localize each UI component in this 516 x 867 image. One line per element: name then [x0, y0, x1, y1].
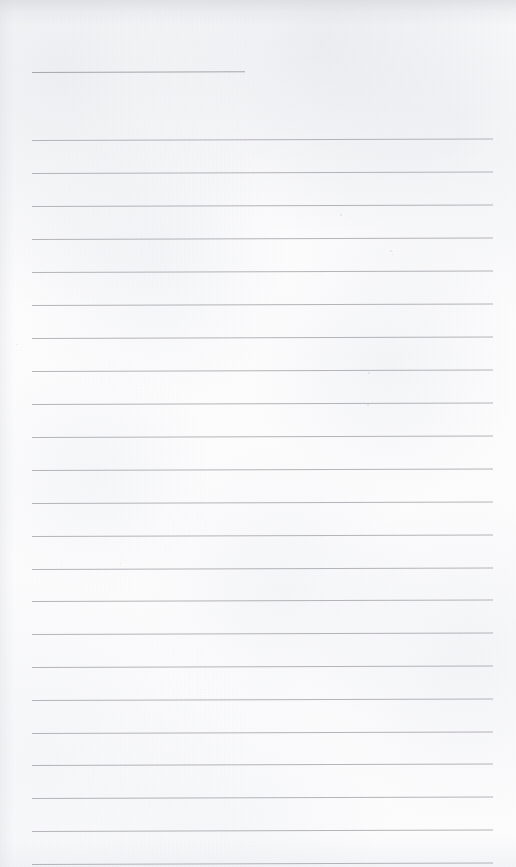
ruled-line-layer: [0, 0, 516, 867]
ruled-line: [32, 863, 493, 865]
ruled-line: [32, 139, 493, 141]
ruled-line: [32, 238, 493, 240]
ruled-line: [32, 732, 493, 734]
header-rule: [32, 71, 245, 73]
ruled-line: [32, 271, 493, 273]
scanned-page: [0, 0, 516, 867]
ruled-line: [32, 502, 493, 504]
ruled-line: [32, 633, 493, 635]
ruled-line: [32, 370, 493, 372]
ruled-line: [32, 337, 493, 339]
ruled-line: [32, 600, 493, 602]
ruled-line: [32, 172, 493, 174]
ruled-line: [32, 403, 493, 405]
ruled-line: [32, 205, 493, 207]
ruled-line: [32, 469, 493, 471]
ruled-line: [32, 304, 493, 306]
ruled-line: [32, 436, 493, 438]
ruled-line: [32, 797, 493, 799]
ruled-line: [32, 764, 493, 766]
ruled-line: [32, 666, 493, 668]
ruled-line: [32, 568, 493, 570]
ruled-line: [32, 699, 493, 701]
ruled-line: [32, 830, 493, 832]
ruled-line: [32, 535, 493, 537]
